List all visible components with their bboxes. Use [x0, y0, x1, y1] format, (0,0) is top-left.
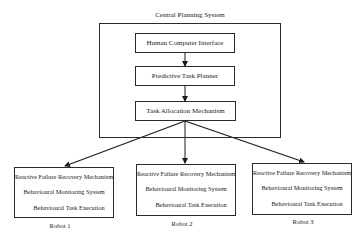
- predictive-task-planner-label: Predictive Task Planner: [152, 72, 218, 80]
- robot-1-monitoring-system: Behavioural Monitoring System: [15, 188, 113, 195]
- robot-2-monitoring-system: Behavioural Monitoring System: [137, 185, 235, 192]
- robot-2-label: Robot 2: [162, 220, 202, 227]
- human-computer-interface-box: Human Computer Interface: [135, 33, 235, 53]
- robot-3-box: Reactive Failure Recovery Mechanism Beha…: [252, 163, 352, 215]
- robot-1-failure-recovery: Reactive Failure Recovery Mechanism: [12, 173, 116, 180]
- central-planning-title: Central Planning System: [99, 11, 281, 19]
- robot-2-task-execution: Behavioural Task Execution: [147, 201, 235, 208]
- robot-3-label: Robot 3: [283, 218, 323, 225]
- human-computer-interface-label: Human Computer Interface: [147, 39, 224, 47]
- robot-2-box: Reactive Failure Recovery Mechanism Beha…: [136, 164, 236, 216]
- robot-1-task-execution: Behavioural Task Execution: [25, 204, 113, 211]
- robot-1-label: Robot 1: [40, 222, 80, 229]
- robot-3-monitoring-system: Behavioural Monitoring System: [253, 184, 351, 191]
- task-allocation-mechanism-box: Task Allocation Mechanism: [135, 101, 236, 121]
- robot-3-failure-recovery: Reactive Failure Recovery Mechanism: [250, 169, 354, 176]
- robot-2-failure-recovery: Reactive Failure Recovery Mechanism: [134, 170, 238, 177]
- task-allocation-mechanism-label: Task Allocation Mechanism: [146, 107, 224, 115]
- predictive-task-planner-box: Predictive Task Planner: [135, 66, 235, 86]
- robot-1-box: Reactive Failure Recovery Mechanism Beha…: [14, 167, 114, 218]
- robot-3-task-execution: Behavioural Task Execution: [263, 200, 351, 207]
